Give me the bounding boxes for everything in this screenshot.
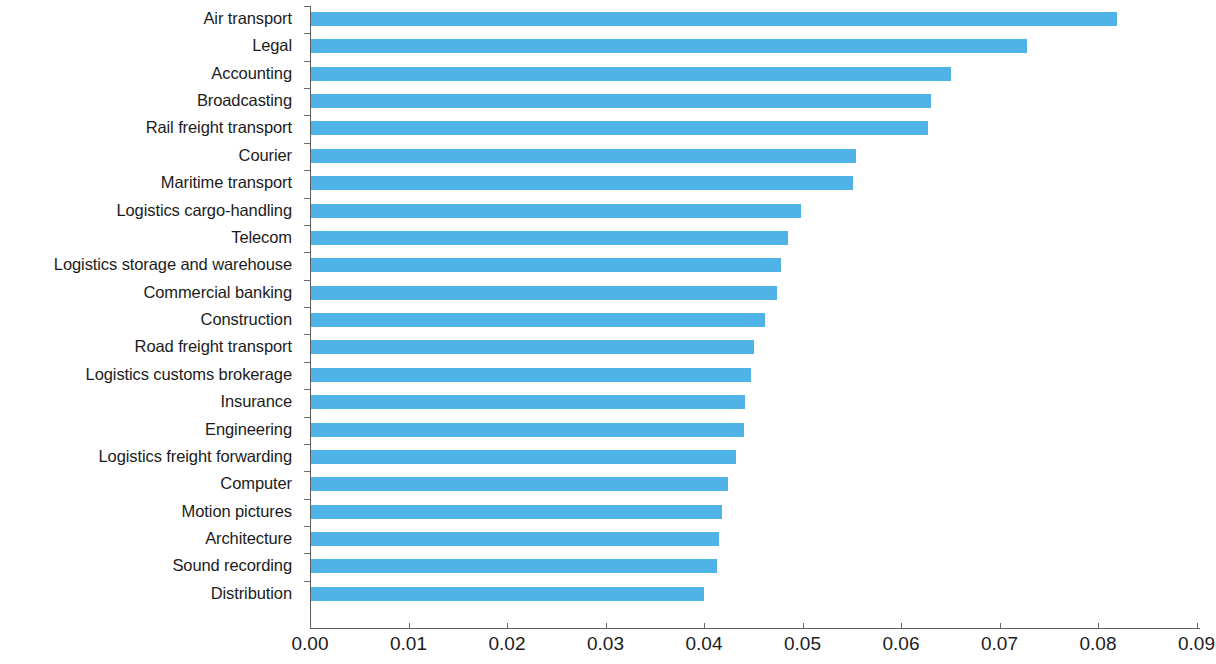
category-label: Telecom (0, 229, 292, 246)
category-label: Engineering (0, 421, 292, 438)
bar (311, 368, 751, 382)
value-axis-tick (1000, 623, 1001, 628)
category-label: Architecture (0, 530, 292, 547)
category-label: Computer (0, 475, 292, 492)
category-axis-tick (304, 170, 310, 171)
category-axis-tick (304, 252, 310, 253)
value-axis-tick (901, 623, 902, 628)
value-axis-line (310, 628, 1200, 629)
bar (311, 477, 728, 491)
value-axis-tick-label: 0.05 (758, 633, 848, 655)
value-axis-tick (409, 623, 410, 628)
bar (311, 313, 765, 327)
category-label: Rail freight transport (0, 119, 292, 136)
category-axis-tick (304, 444, 310, 445)
category-label: Road freight transport (0, 338, 292, 355)
value-axis-tick (310, 623, 311, 628)
value-axis-tick-label: 0.09 (1152, 633, 1216, 655)
bar (311, 121, 928, 135)
bar (311, 204, 801, 218)
category-axis-tick (304, 88, 310, 89)
category-axis-tick (304, 499, 310, 500)
value-axis-tick (1197, 623, 1198, 628)
value-axis-tick-label: 0.03 (561, 633, 651, 655)
category-axis-tick (304, 471, 310, 472)
category-axis-labels: Air transportLegalAccountingBroadcasting… (0, 0, 302, 628)
category-axis-tick (304, 526, 310, 527)
category-axis-tick (304, 61, 310, 62)
category-label: Air transport (0, 10, 292, 27)
category-label: Maritime transport (0, 174, 292, 191)
category-label: Logistics cargo-handling (0, 202, 292, 219)
bar (311, 149, 856, 163)
value-axis-tick (803, 623, 804, 628)
bar (311, 286, 777, 300)
value-axis-tick (606, 623, 607, 628)
category-label: Construction (0, 311, 292, 328)
category-axis-tick (304, 33, 310, 34)
bar (311, 12, 1117, 26)
bar (311, 176, 853, 190)
value-axis-tick-label: 0.01 (364, 633, 454, 655)
category-axis-tick (304, 225, 310, 226)
value-axis-tick (507, 623, 508, 628)
category-label: Accounting (0, 65, 292, 82)
category-axis-tick (304, 307, 310, 308)
category-label: Broadcasting (0, 92, 292, 109)
category-axis-tick (304, 143, 310, 144)
category-axis-tick (304, 280, 310, 281)
bar (311, 450, 736, 464)
value-axis-tick-label: 0.02 (462, 633, 552, 655)
bar (311, 587, 704, 601)
category-label: Insurance (0, 393, 292, 410)
category-axis-tick (304, 553, 310, 554)
category-label: Logistics storage and warehouse (0, 256, 292, 273)
category-label: Legal (0, 37, 292, 54)
category-axis-tick (304, 198, 310, 199)
bar (311, 94, 931, 108)
bar (311, 559, 717, 573)
value-axis-tick (1098, 623, 1099, 628)
category-axis-tick (304, 389, 310, 390)
bar (311, 340, 754, 354)
category-label: Sound recording (0, 557, 292, 574)
value-axis-tick-label: 0.06 (856, 633, 946, 655)
category-label: Distribution (0, 585, 292, 602)
bar (311, 395, 745, 409)
category-label: Motion pictures (0, 503, 292, 520)
category-axis-tick (304, 334, 310, 335)
category-axis-tick (304, 6, 310, 7)
horizontal-bar-chart: Air transportLegalAccountingBroadcasting… (0, 0, 1216, 664)
value-axis-tick-label: 0.00 (265, 633, 355, 655)
bar (311, 532, 719, 546)
value-axis-tick-label: 0.04 (659, 633, 749, 655)
value-axis-tick (704, 623, 705, 628)
bar (311, 505, 722, 519)
value-axis-tick-label: 0.07 (955, 633, 1045, 655)
category-label: Commercial banking (0, 284, 292, 301)
category-axis-tick (304, 115, 310, 116)
bar (311, 258, 781, 272)
category-label: Courier (0, 147, 292, 164)
bar (311, 423, 744, 437)
value-axis-tick-label: 0.08 (1053, 633, 1143, 655)
category-label: Logistics freight forwarding (0, 448, 292, 465)
category-label: Logistics customs brokerage (0, 366, 292, 383)
bar (311, 39, 1027, 53)
bar (311, 67, 951, 81)
category-axis-tick (304, 362, 310, 363)
bar (311, 231, 788, 245)
category-axis-tick (304, 581, 310, 582)
category-axis-tick (304, 417, 310, 418)
